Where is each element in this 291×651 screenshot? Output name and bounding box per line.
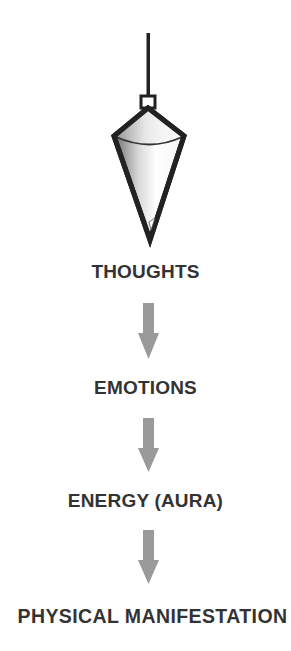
pendulum-icon xyxy=(0,0,291,250)
step-label-energy-aura: ENERGY (AURA) xyxy=(0,491,291,511)
down-arrow-icon xyxy=(0,528,291,588)
step-label-emotions: EMOTIONS xyxy=(0,378,291,398)
step-label-thoughts: THOUGHTS xyxy=(0,262,291,282)
pendulum-string xyxy=(147,33,151,97)
down-arrow-icon xyxy=(0,416,291,476)
down-arrow-icon xyxy=(0,301,291,361)
step-label-physical-manifestation: PHYSICAL MANIFESTATION xyxy=(7,606,291,626)
